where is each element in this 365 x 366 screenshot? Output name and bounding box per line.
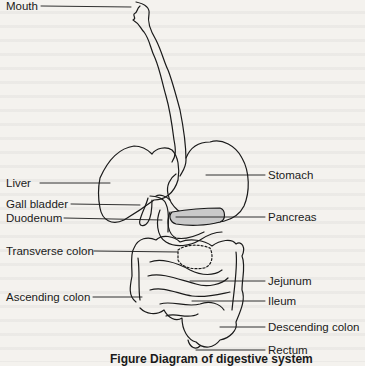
label-transverse-colon: Transverse colon [6, 245, 94, 258]
esophagus [136, 2, 186, 176]
figure-caption: Figure Diagram of digestive system [110, 352, 313, 366]
label-descending-colon: Descending colon [268, 321, 359, 334]
label-liver: Liver [6, 177, 31, 190]
label-ileum: Ileum [268, 295, 296, 308]
label-pancreas: Pancreas [268, 211, 317, 224]
label-mouth: Mouth [6, 0, 38, 13]
label-duodenum: Duodenum [6, 212, 62, 225]
liver-outline [99, 146, 179, 222]
label-stomach: Stomach [268, 169, 313, 182]
label-ascending-colon: Ascending colon [6, 291, 90, 304]
label-jejunum: Jejunum [268, 275, 311, 288]
transverse-colon-dashed [178, 245, 212, 269]
large-intestine [130, 236, 244, 347]
label-gall-bladder: Gall bladder [6, 198, 68, 211]
